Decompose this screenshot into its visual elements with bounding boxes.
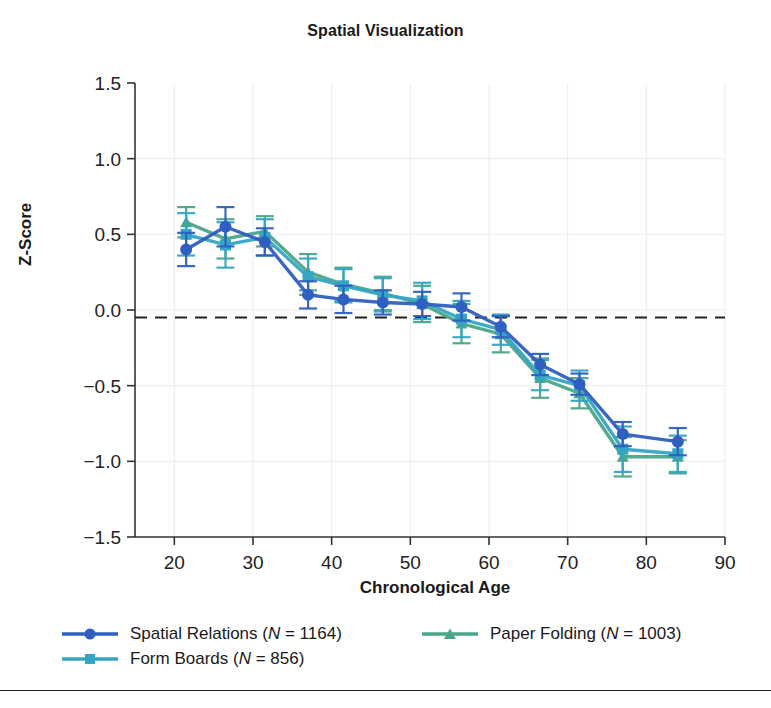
axis-ticks xyxy=(127,83,725,545)
data-point-marker xyxy=(302,289,314,301)
svg-text:0.5: 0.5 xyxy=(95,224,121,245)
axis-tick-labels: 1.51.00.50.0−0.5−1.0−1.52030405060708090 xyxy=(83,73,735,573)
series-line xyxy=(186,234,678,453)
series-form-boards xyxy=(177,213,687,472)
legend-label-paper-folding: Paper Folding (N = 1003) xyxy=(490,624,681,644)
data-point-marker xyxy=(219,221,231,233)
footer-rule xyxy=(0,690,771,691)
legend-swatch-square-icon xyxy=(60,650,120,668)
series-spatial-relations xyxy=(177,207,687,455)
gridlines xyxy=(135,83,725,537)
legend-item-spatial-relations: Spatial Relations (N = 1164) xyxy=(60,624,420,644)
legend-item-form-boards: Form Boards (N = 856) xyxy=(60,649,420,669)
legend-label-form-boards: Form Boards (N = 856) xyxy=(130,649,304,669)
data-point-marker xyxy=(377,296,389,308)
svg-text:−1.5: −1.5 xyxy=(83,527,121,548)
plot-area: 1.51.00.50.0−0.5−1.0−1.52030405060708090 xyxy=(0,0,771,708)
svg-text:1.5: 1.5 xyxy=(95,73,121,94)
svg-text:−0.5: −0.5 xyxy=(83,376,121,397)
svg-text:30: 30 xyxy=(242,552,263,573)
svg-text:20: 20 xyxy=(164,552,185,573)
legend-item-paper-folding: Paper Folding (N = 1003) xyxy=(420,624,681,644)
series-line xyxy=(186,227,678,442)
data-series-layer xyxy=(177,207,687,476)
svg-text:40: 40 xyxy=(321,552,342,573)
data-point-marker xyxy=(534,358,546,370)
legend-label-spatial-relations: Spatial Relations (N = 1164) xyxy=(130,624,342,644)
chart-legend: Spatial Relations (N = 1164) Paper Foldi… xyxy=(60,624,760,674)
svg-text:50: 50 xyxy=(400,552,421,573)
svg-text:1.0: 1.0 xyxy=(95,149,121,170)
svg-text:0.0: 0.0 xyxy=(95,300,121,321)
data-point-marker xyxy=(180,243,192,255)
svg-text:60: 60 xyxy=(478,552,499,573)
figure: Spatial Visualization Z-Score 1.51.00.50… xyxy=(0,0,771,708)
data-point-marker xyxy=(337,293,349,305)
data-point-marker xyxy=(573,378,585,390)
svg-text:80: 80 xyxy=(636,552,657,573)
data-point-marker xyxy=(495,321,507,333)
svg-text:70: 70 xyxy=(557,552,578,573)
legend-swatch-circle-icon xyxy=(60,625,120,643)
data-point-marker xyxy=(672,436,684,448)
data-point-marker xyxy=(416,298,428,310)
svg-text:−1.0: −1.0 xyxy=(83,451,121,472)
legend-swatch-triangle-icon xyxy=(420,625,480,643)
data-point-marker xyxy=(259,236,271,248)
data-point-marker xyxy=(455,301,467,313)
series-paper-folding xyxy=(177,207,687,476)
svg-text:90: 90 xyxy=(714,552,735,573)
data-point-marker xyxy=(617,428,629,440)
x-axis-label: Chronological Age xyxy=(135,578,735,598)
